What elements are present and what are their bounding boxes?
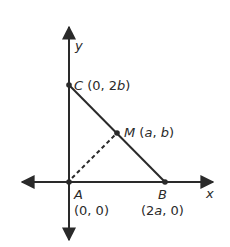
point-a-name: A [73, 187, 83, 202]
point-b-coords: (2a, 0) [141, 203, 184, 218]
y-axis-label: y [74, 38, 83, 53]
point-c [66, 82, 72, 88]
point-m-open: ( [135, 125, 144, 140]
point-b-open: (2 [141, 203, 154, 218]
point-m-comma: , [152, 125, 160, 140]
point-b-a: a [154, 203, 162, 218]
point-b-close: , 0) [162, 203, 184, 218]
point-m-b: b [161, 125, 169, 140]
point-c-close: ) [125, 78, 130, 93]
point-b [162, 179, 168, 185]
point-c-label: C (0, 2b) [74, 78, 130, 93]
point-a-coords: (0, 0) [74, 203, 109, 218]
point-m-close: ) [169, 125, 174, 140]
segment-am-dashed [72, 135, 115, 178]
coordinate-diagram: y x C (0, 2b) M (a, b) A (0, 0) B (2a, 0… [0, 0, 230, 247]
point-m-name: M [124, 125, 135, 140]
x-axis-label: x [205, 186, 214, 201]
point-c-var: b [117, 78, 125, 93]
point-a [66, 179, 72, 185]
point-c-coords: (0, 2 [83, 78, 117, 93]
point-m [114, 130, 120, 136]
point-m-label: M (a, b) [124, 125, 174, 140]
point-m-a: a [144, 125, 152, 140]
point-b-name: B [158, 187, 167, 202]
